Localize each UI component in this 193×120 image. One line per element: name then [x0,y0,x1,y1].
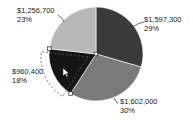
percent-label: 18% [12,76,43,85]
value-label: $1,597,300 [144,15,182,24]
leader-line-slice2 [114,98,118,103]
data-label-slice3[interactable]: $960,400 18% [12,67,43,85]
selection-handle-3[interactable] [47,47,51,51]
percent-label: 23% [17,15,55,24]
selection-handle-2[interactable] [69,92,73,96]
value-label: $1,602,000 [120,97,158,106]
leader-line-slice1 [133,22,144,27]
data-label-slice4[interactable]: $1,256,700 23% [17,6,55,24]
selection-handle-1[interactable] [94,52,98,56]
value-label: $1,256,700 [17,6,55,15]
percent-label: 30% [120,106,158,115]
data-label-slice2[interactable]: $1,602,000 30% [120,97,158,115]
value-label: $960,400 [12,67,43,76]
percent-label: 29% [144,24,182,33]
pie-slice-4[interactable] [49,7,96,54]
data-label-slice1[interactable]: $1,597,300 29% [144,15,182,33]
